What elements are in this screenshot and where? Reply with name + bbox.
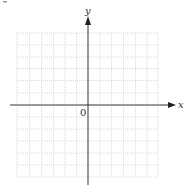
y-axis-label: y xyxy=(84,5,91,16)
x-axis-arrow-icon xyxy=(168,102,176,108)
corner-mark xyxy=(3,1,7,3)
y-axis-arrow-icon xyxy=(85,16,91,25)
origin-label: 0 xyxy=(80,107,86,118)
coordinate-plane: y x 0 xyxy=(0,0,187,191)
x-axis-label: x xyxy=(178,99,184,110)
